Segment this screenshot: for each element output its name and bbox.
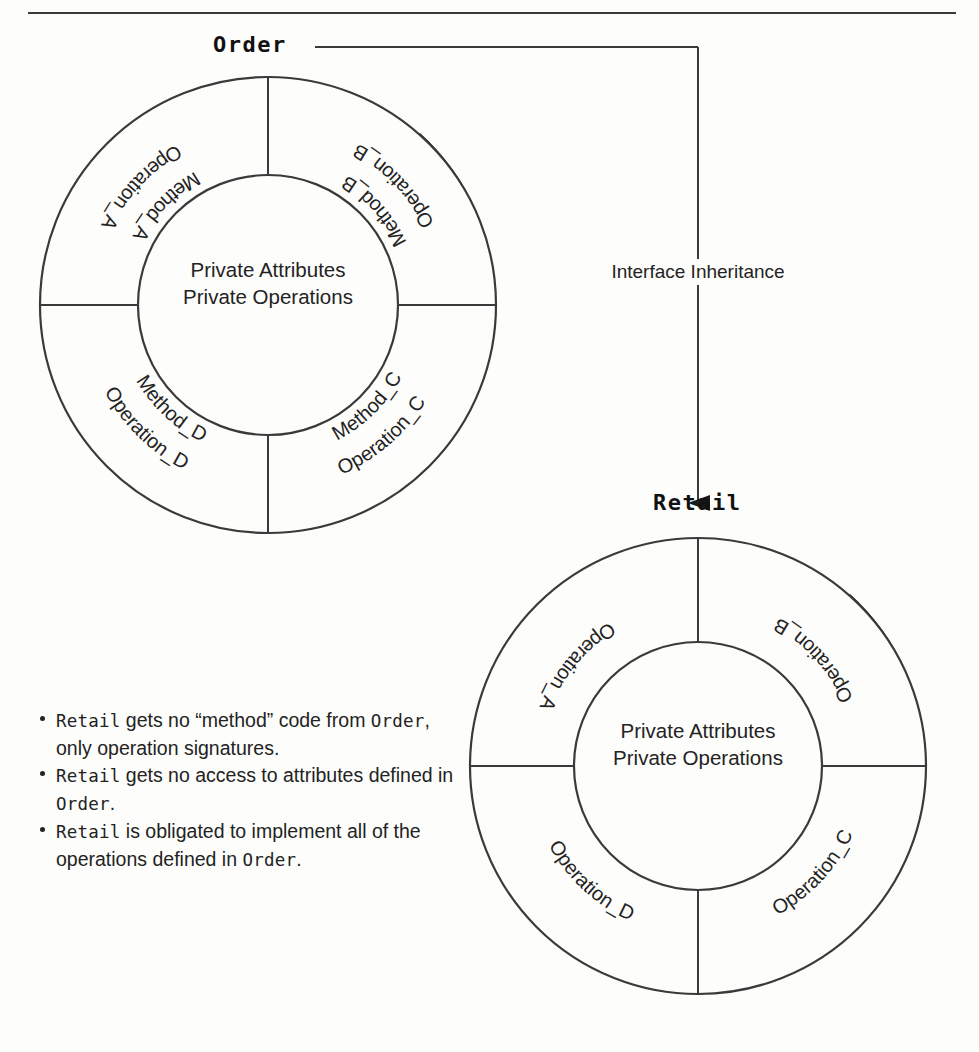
bullet-icon <box>40 827 45 832</box>
note-item: Retail gets no access to attributes defi… <box>38 762 458 817</box>
notes-list: Retail gets no “method” code from Order,… <box>38 707 458 874</box>
diagram-page: Operation_A Method_A Operation_B Method_… <box>0 0 979 1052</box>
retail-core-line-1: Private Attributes <box>613 717 783 744</box>
interface-inheritance-label: Interface Inheritance <box>604 259 791 285</box>
order-core-line-2: Private Operations <box>183 283 353 310</box>
note-text: . <box>296 848 301 870</box>
retail-class-title: Retail <box>653 490 741 515</box>
order-class-title: Order <box>213 32 287 57</box>
diagram-canvas: Operation_A Method_A Operation_B Method_… <box>0 0 979 1052</box>
note-item: Retail gets no “method” code from Order,… <box>38 707 458 761</box>
note-code-token: Retail <box>56 711 120 731</box>
note-text: . <box>110 792 115 814</box>
note-code-token: Retail <box>56 822 120 842</box>
order-core-text: Private Attributes Private Operations <box>183 256 353 310</box>
note-code-token: Order <box>242 850 296 870</box>
note-text: gets no “method” code from <box>120 709 370 731</box>
order-core-line-1: Private Attributes <box>183 256 353 283</box>
note-code-token: Retail <box>56 766 120 786</box>
note-code-token: Order <box>371 711 425 731</box>
bullet-icon <box>40 716 45 721</box>
note-text: gets no access to attributes defined in <box>120 764 453 786</box>
bullet-icon <box>40 771 45 776</box>
note-code-token: Order <box>56 794 110 814</box>
retail-core-text: Private Attributes Private Operations <box>613 717 783 771</box>
retail-core-line-2: Private Operations <box>613 744 783 771</box>
note-item: Retail is obligated to implement all of … <box>38 818 458 873</box>
